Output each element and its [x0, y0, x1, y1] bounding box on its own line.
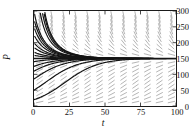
x-axis-title: t: [95, 118, 111, 128]
plot-area: [33, 10, 177, 107]
plot-canvas: [34, 11, 176, 106]
slope-field-figure: 300 250 200 150 100 50 0 0 25 50 75 100 …: [0, 0, 189, 130]
solution-curve: [34, 59, 176, 100]
y-axis-title: P: [2, 49, 12, 65]
x-tick-label-0: 0: [18, 108, 48, 117]
x-tick-label-75: 75: [126, 108, 156, 117]
solution-curve: [40, 13, 175, 59]
x-tick-label-100: 100: [162, 108, 189, 117]
solution-curves: [34, 12, 176, 100]
x-tick-label-25: 25: [54, 108, 84, 117]
x-tick-label-50: 50: [90, 108, 120, 117]
